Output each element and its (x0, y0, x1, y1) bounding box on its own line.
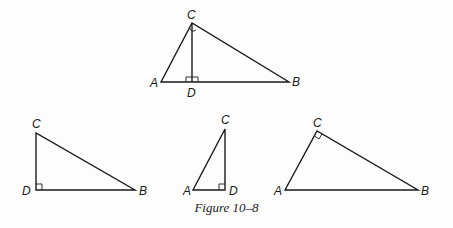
label-a: A (182, 184, 191, 198)
right-angle-mark-d (219, 184, 225, 190)
label-b: B (292, 75, 300, 89)
right-angle-mark-d (36, 184, 42, 190)
triangle-abc (161, 23, 289, 82)
triangle-adc-shape (193, 129, 225, 190)
label-c: C (32, 117, 41, 131)
figure-caption: Figure 10–8 (0, 200, 453, 216)
label-a: A (273, 184, 282, 198)
triangle-dbc: C D B (22, 117, 147, 198)
label-a: A (149, 76, 158, 90)
label-c: C (313, 116, 322, 130)
figure-canvas: C A B D C D B C A D C A B F (0, 0, 453, 228)
label-d: D (229, 184, 238, 198)
label-c: C (187, 8, 196, 22)
triangles-diagram: C A B D C D B C A D C A B (0, 0, 453, 228)
label-b: B (139, 184, 147, 198)
label-b: B (421, 184, 429, 198)
label-d: D (187, 86, 196, 100)
label-c: C (221, 113, 230, 127)
triangle-acb: C A B (273, 116, 429, 198)
main-triangle: C A B D (149, 8, 300, 100)
triangle-acb-shape (285, 131, 418, 190)
triangle-adc: C A D (182, 113, 238, 198)
label-d: D (22, 184, 31, 198)
triangle-dbc-shape (36, 133, 135, 190)
right-angle-mark-c (190, 28, 197, 31)
